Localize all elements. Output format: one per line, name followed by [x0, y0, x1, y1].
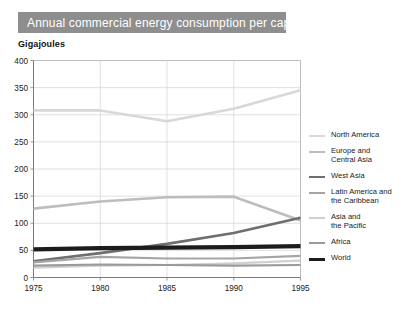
svg-text:50: 50	[19, 246, 29, 255]
series-line	[34, 246, 301, 249]
y-axis-tick-labels: 050100150200250300350400	[14, 57, 28, 283]
svg-text:0: 0	[23, 274, 28, 283]
x-axis-tick-labels: 19751980198519901995	[24, 284, 310, 293]
svg-text:300: 300	[14, 111, 28, 120]
legend-item-label: World	[331, 253, 351, 262]
legend-swatch-icon	[309, 176, 325, 178]
svg-text:1985: 1985	[158, 284, 177, 293]
svg-text:1975: 1975	[24, 284, 43, 293]
legend-item-label: Europe and Central Asia	[331, 146, 372, 164]
legend-swatch-icon	[309, 242, 325, 244]
legend-swatch-icon	[309, 151, 325, 153]
legend-item-label: Latin America and the Caribbean	[331, 187, 392, 205]
svg-text:350: 350	[14, 84, 28, 93]
legend-swatch-icon	[309, 258, 325, 261]
legend-item[interactable]: Europe and Central Asia	[309, 146, 404, 164]
svg-text:250: 250	[14, 138, 28, 147]
svg-text:400: 400	[14, 57, 28, 66]
legend-item-label: Asia and the Pacific	[331, 212, 366, 230]
svg-text:1995: 1995	[291, 284, 310, 293]
svg-text:1990: 1990	[225, 284, 244, 293]
svg-text:150: 150	[14, 192, 28, 201]
svg-text:1980: 1980	[91, 284, 110, 293]
legend-item[interactable]: World	[309, 253, 404, 262]
legend-swatch-icon	[309, 192, 325, 194]
svg-text:100: 100	[14, 219, 28, 228]
legend-item[interactable]: Asia and the Pacific	[309, 212, 404, 230]
legend-item[interactable]: Latin America and the Caribbean	[309, 187, 404, 205]
legend-item[interactable]: Africa	[309, 237, 404, 246]
series-line	[34, 264, 301, 265]
legend-item-label: North America	[331, 130, 379, 139]
legend-swatch-icon	[309, 135, 325, 137]
chart-legend: North AmericaEurope and Central AsiaWest…	[309, 130, 404, 269]
legend-item[interactable]: North America	[309, 130, 404, 139]
svg-text:200: 200	[14, 165, 28, 174]
legend-item-label: Africa	[331, 237, 350, 246]
chart-figure: Annual commercial energy consumption per…	[0, 0, 404, 309]
legend-swatch-icon	[309, 217, 325, 219]
legend-item-label: West Asia	[331, 171, 365, 180]
legend-item[interactable]: West Asia	[309, 171, 404, 180]
